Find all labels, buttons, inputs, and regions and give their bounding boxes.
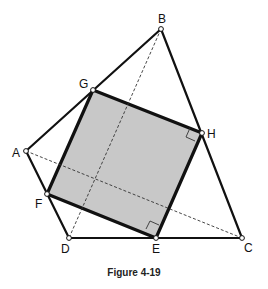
label-E: E <box>152 242 160 256</box>
point-A <box>24 149 29 154</box>
point-H <box>200 131 205 136</box>
label-C: C <box>244 241 253 255</box>
point-E <box>154 236 159 241</box>
label-H: H <box>207 127 216 141</box>
geometry-figure: A B C D E F G H <box>0 0 268 289</box>
point-B <box>159 27 164 32</box>
point-C <box>240 236 245 241</box>
label-F: F <box>35 197 42 211</box>
point-F <box>45 192 50 197</box>
label-D: D <box>61 242 70 256</box>
label-G: G <box>79 77 88 91</box>
figure-caption: Figure 4-19 <box>0 267 268 278</box>
point-G <box>91 88 96 93</box>
label-A: A <box>12 146 20 160</box>
point-D <box>67 236 72 241</box>
label-B: B <box>158 12 166 26</box>
